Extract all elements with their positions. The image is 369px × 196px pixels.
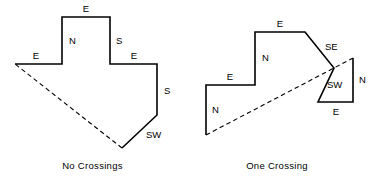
direction-label-n: N <box>69 35 76 46</box>
direction-label-n: N <box>212 104 219 115</box>
direction-label-e: E <box>33 50 39 61</box>
figure-root: ENESESSW No Crossings NENESESWEN One Cro… <box>0 0 369 196</box>
polygon-outline-path <box>15 17 157 148</box>
panel-one-crossing: NENESESWEN One Crossing <box>185 0 369 196</box>
direction-label-n: N <box>359 74 366 85</box>
panel-no-crossings: ENESESSW No Crossings <box>0 0 185 196</box>
direction-label-e: E <box>277 18 283 29</box>
direction-label-e: E <box>131 50 137 61</box>
direction-label-n: N <box>262 52 269 63</box>
direction-label-e: E <box>333 106 339 117</box>
direction-label-group: ENESESSW <box>33 3 171 140</box>
panel-caption-no-crossings: No Crossings <box>0 160 185 171</box>
direction-label-e: E <box>227 71 233 82</box>
direction-label-s: S <box>164 85 170 96</box>
direction-label-sw: SW <box>327 79 342 90</box>
direction-label-sw: SW <box>146 129 161 140</box>
direction-label-se: SE <box>325 41 338 52</box>
direction-label-s: S <box>116 35 122 46</box>
closing-dashed-path <box>15 64 122 148</box>
panel-caption-one-crossing: One Crossing <box>185 160 369 171</box>
direction-label-e: E <box>83 3 89 14</box>
